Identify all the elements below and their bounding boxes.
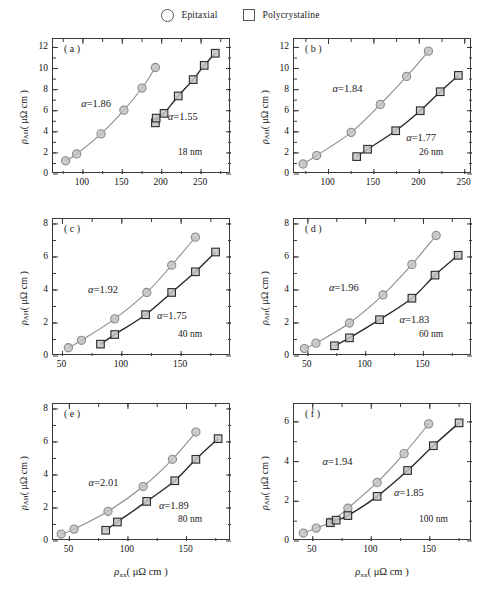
data-point-circle xyxy=(408,260,416,268)
data-point-circle xyxy=(432,231,440,239)
data-point-square xyxy=(192,456,200,464)
series-layer xyxy=(294,39,472,174)
plot-canvas-a xyxy=(53,39,229,172)
x-tick-label: 50 xyxy=(307,544,317,554)
thickness-label: 40 nm xyxy=(178,329,202,339)
y-tick-label: 6 xyxy=(30,251,48,261)
panel-label: ( f ) xyxy=(305,408,320,419)
alpha-annotation: α=2.01 xyxy=(89,477,119,488)
data-point-circle xyxy=(299,160,307,168)
data-point-square xyxy=(431,271,439,279)
legend-item-epitaxial: Epitaxial xyxy=(161,9,217,22)
data-point-square xyxy=(331,342,339,350)
series-layer xyxy=(53,219,231,356)
legend: Epitaxial Polycrystaline xyxy=(0,4,481,26)
x-tick-label: 50 xyxy=(302,359,312,369)
data-point-circle xyxy=(139,482,147,490)
data-point-square xyxy=(189,76,197,84)
x-tick-label: 100 xyxy=(358,359,372,369)
data-point-square xyxy=(171,477,179,485)
series-epitaxial xyxy=(299,420,433,537)
data-point-circle xyxy=(373,478,381,486)
panel-label: ( b ) xyxy=(305,43,322,54)
legend-label-polycrystaline: Polycrystaline xyxy=(262,10,319,20)
data-point-square xyxy=(392,127,400,135)
thickness-label: 80 nm xyxy=(178,514,202,524)
data-point-square xyxy=(214,435,222,443)
data-point-circle xyxy=(73,150,81,158)
data-point-circle xyxy=(151,63,159,71)
data-point-square xyxy=(376,316,384,324)
alpha-annotation: α=1.77 xyxy=(406,132,436,143)
legend-item-polycrystaline: Polycrystaline xyxy=(243,9,319,21)
alpha-annotation: α=1.75 xyxy=(157,309,187,320)
x-tick-label: 150 xyxy=(415,359,429,369)
series-epitaxial xyxy=(62,63,160,165)
series-line xyxy=(66,67,156,160)
x-tick-label: 100 xyxy=(75,177,89,187)
data-point-square xyxy=(344,512,352,520)
y-tick-label: 2 xyxy=(271,495,289,505)
y-tick-label: 12 xyxy=(30,41,48,51)
plot-frame-e xyxy=(52,403,230,540)
alpha-annotation: α=1.89 xyxy=(159,500,189,511)
plot-frame-a xyxy=(52,38,230,173)
series-layer xyxy=(53,39,231,174)
data-point-square xyxy=(160,110,168,118)
panel-f: 501001500246ρAH( μΩ cm )ρxx( μΩ cm )( f … xyxy=(240,391,481,605)
data-point-circle xyxy=(300,344,308,352)
x-tick-label: 50 xyxy=(64,544,74,554)
data-point-square xyxy=(332,516,340,524)
data-point-square xyxy=(143,498,151,506)
data-point-square xyxy=(455,72,463,80)
thickness-label: 100 nm xyxy=(419,514,448,524)
y-tick-label: 0 xyxy=(271,350,289,360)
y-tick-label: 0 xyxy=(271,168,289,178)
data-point-circle xyxy=(312,524,320,532)
y-tick-label: 0 xyxy=(271,535,289,545)
alpha-annotation: α=1.96 xyxy=(329,282,359,293)
x-tick-label: 150 xyxy=(114,177,128,187)
data-point-square xyxy=(168,289,176,297)
x-axis-title: ρxx( μΩ cm ) xyxy=(114,566,167,579)
y-tick-label: 4 xyxy=(271,126,289,136)
data-point-square xyxy=(114,518,122,526)
data-point-circle xyxy=(138,84,146,92)
y-tick-label: 6 xyxy=(30,436,48,446)
data-point-circle xyxy=(299,529,307,537)
data-point-square xyxy=(416,107,424,115)
data-point-circle xyxy=(62,157,70,165)
data-point-square xyxy=(200,62,208,70)
panel-grid: 100150200250024681012ρAH( μΩ cm )( a )18… xyxy=(0,26,481,605)
alpha-annotation: α=1.94 xyxy=(323,455,353,466)
y-axis-title: ρAH( μΩ cm ) xyxy=(18,90,29,144)
panel-label: ( d ) xyxy=(305,223,322,234)
y-tick-label: 8 xyxy=(271,218,289,228)
data-point-square xyxy=(436,88,444,96)
panel-e: 5010015002468ρAH( μΩ cm )ρxx( μΩ cm )( e… xyxy=(0,391,240,605)
plot-frame-d xyxy=(293,218,471,355)
y-tick-label: 6 xyxy=(271,105,289,115)
data-point-square xyxy=(174,92,182,100)
alpha-annotation: α=1.92 xyxy=(88,283,118,294)
data-point-square xyxy=(102,526,110,534)
data-point-circle xyxy=(347,128,355,136)
data-point-circle xyxy=(70,525,78,533)
thickness-label: 60 nm xyxy=(419,329,443,339)
series-layer xyxy=(53,404,231,541)
y-tick-label: 2 xyxy=(30,147,48,157)
y-axis-title: ρAH( μΩ cm ) xyxy=(259,271,270,325)
panel-a: 100150200250024681012ρAH( μΩ cm )( a )18… xyxy=(0,26,240,206)
y-tick-label: 6 xyxy=(271,416,289,426)
series-line xyxy=(304,236,436,349)
x-tick-label: 100 xyxy=(320,177,334,187)
x-tick-label: 100 xyxy=(363,544,377,554)
data-point-square xyxy=(408,294,416,302)
y-tick-label: 4 xyxy=(30,284,48,294)
y-tick-label: 2 xyxy=(30,317,48,327)
panel-d: 5010015002468ρAH( μΩ cm )( d )60 nmα=1.9… xyxy=(240,206,481,391)
panel-label: ( e ) xyxy=(64,408,80,419)
data-point-square xyxy=(212,248,220,256)
y-tick-label: 8 xyxy=(30,403,48,413)
data-point-circle xyxy=(168,261,176,269)
